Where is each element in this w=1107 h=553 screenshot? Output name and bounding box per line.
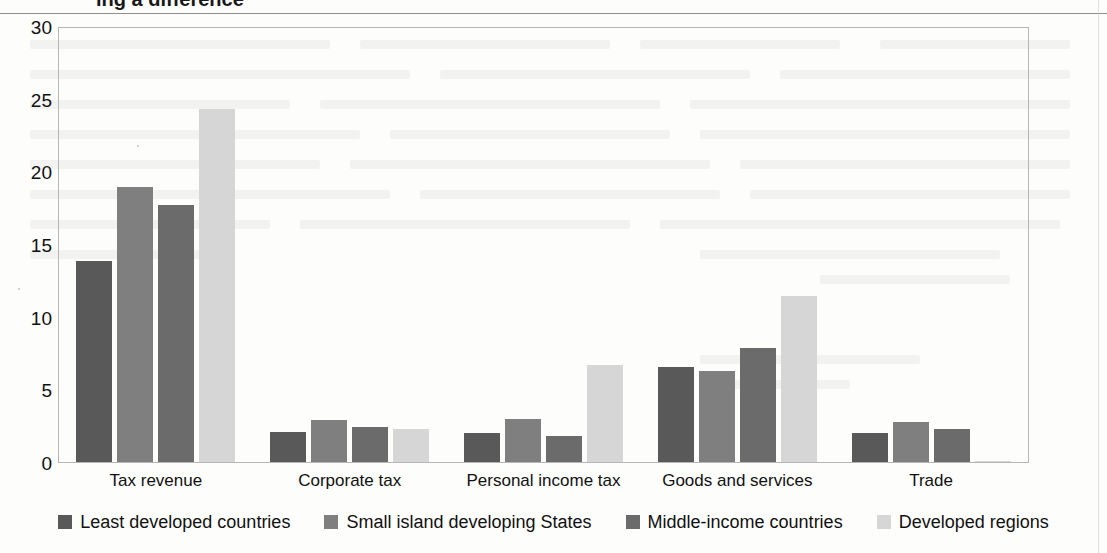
legend-color-swatch-icon — [58, 515, 72, 529]
x-axis-category-label: Trade — [834, 470, 1028, 496]
bar[interactable] — [393, 429, 429, 462]
y-axis-tick-label: 5 — [0, 381, 52, 400]
bar[interactable] — [975, 461, 1011, 462]
bar[interactable] — [270, 432, 306, 462]
y-axis-tick-label: 10 — [0, 308, 52, 327]
x-axis-category-label: Corporate tax — [253, 470, 447, 496]
chart-legend: Least developed countriesSmall island de… — [0, 512, 1107, 532]
y-axis: 302520151050 — [0, 27, 52, 463]
legend-item[interactable]: Least developed countries — [58, 512, 290, 532]
legend-label: Least developed countries — [80, 512, 290, 532]
bar-group — [447, 28, 641, 462]
bar[interactable] — [852, 433, 888, 462]
y-axis-tick-label: 0 — [0, 454, 52, 473]
bar[interactable] — [505, 419, 541, 462]
bar-group — [640, 28, 834, 462]
y-axis-tick-label: 15 — [0, 236, 52, 255]
bar[interactable] — [117, 187, 153, 462]
bar[interactable] — [587, 365, 623, 462]
bar-group — [834, 28, 1028, 462]
legend-item[interactable]: Small island developing States — [324, 512, 591, 532]
bar[interactable] — [352, 427, 388, 462]
y-axis-tick-label: 25 — [0, 90, 52, 109]
bar[interactable] — [658, 367, 694, 462]
bar[interactable] — [158, 205, 194, 463]
y-axis-tick-label: 20 — [0, 163, 52, 182]
legend-label: Middle-income countries — [648, 512, 843, 532]
chart-page: ing a difference 302520151050 Tax revenu… — [0, 0, 1107, 553]
legend-color-swatch-icon — [626, 515, 640, 529]
bar-group — [253, 28, 447, 462]
bar[interactable] — [699, 371, 735, 462]
x-axis-category-label: Tax revenue — [59, 470, 253, 496]
bar[interactable] — [76, 261, 112, 462]
x-axis-category-labels: Tax revenueCorporate taxPersonal income … — [59, 470, 1028, 496]
legend-color-swatch-icon — [324, 515, 338, 529]
bar[interactable] — [464, 433, 500, 462]
bar-groups — [59, 28, 1028, 462]
x-axis-category-label: Personal income tax — [447, 470, 641, 496]
bar[interactable] — [546, 436, 582, 462]
grouped-bar-chart: 302520151050 Tax revenueCorporate taxPer… — [0, 0, 1107, 553]
legend-label: Developed regions — [899, 512, 1049, 532]
legend-item[interactable]: Developed regions — [877, 512, 1049, 532]
bar[interactable] — [740, 348, 776, 462]
bar[interactable] — [781, 296, 817, 462]
x-axis-category-label: Goods and services — [640, 470, 834, 496]
bar[interactable] — [893, 422, 929, 463]
bar[interactable] — [311, 420, 347, 462]
bar[interactable] — [934, 429, 970, 462]
bar[interactable] — [199, 109, 235, 462]
legend-item[interactable]: Middle-income countries — [626, 512, 843, 532]
legend-label: Small island developing States — [346, 512, 591, 532]
bar-group — [59, 28, 253, 462]
y-axis-tick-label: 30 — [0, 18, 52, 37]
legend-color-swatch-icon — [877, 515, 891, 529]
